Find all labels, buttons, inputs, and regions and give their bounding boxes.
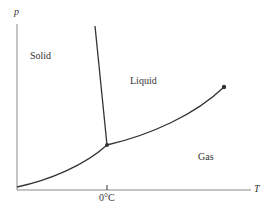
critical-point — [222, 85, 226, 89]
triple-point — [105, 143, 109, 147]
region-gas-label: Gas — [198, 151, 214, 162]
melting-curve — [95, 26, 107, 145]
x-tick-label: 0°C — [99, 192, 115, 203]
vaporization-curve — [107, 87, 224, 145]
region-solid-label: Solid — [30, 50, 51, 61]
sublimation-curve — [17, 145, 107, 187]
x-axis-label: T — [254, 183, 260, 194]
phase-diagram — [0, 0, 269, 208]
region-liquid-label: Liquid — [130, 75, 157, 86]
y-axis-label: p — [14, 6, 19, 17]
